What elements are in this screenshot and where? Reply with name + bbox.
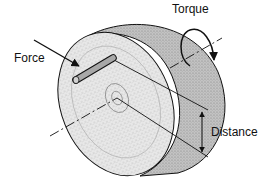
diagram-svg bbox=[0, 0, 275, 179]
torque-label: Torque bbox=[172, 3, 209, 15]
distance-label: Distance bbox=[211, 126, 258, 138]
torque-diagram: Force Torque Distance bbox=[0, 0, 275, 179]
force-label: Force bbox=[14, 52, 45, 64]
disk bbox=[37, 15, 225, 179]
